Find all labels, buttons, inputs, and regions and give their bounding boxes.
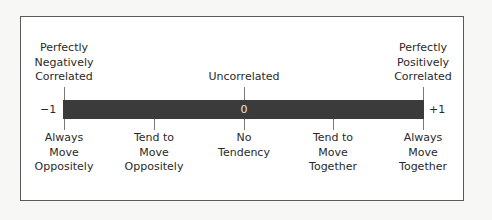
label-perfectly-negatively-correlated: Perfectly Negatively Correlated	[35, 41, 94, 85]
tick-top-zero	[244, 87, 245, 100]
label-always-move-together: Always Move Together	[399, 131, 447, 175]
tick-bottom-1	[64, 119, 65, 130]
label-tend-to-move-oppositely: Tend to Move Oppositely	[125, 131, 184, 175]
tick-bottom-4	[333, 119, 334, 130]
label-tend-to-move-together: Tend to Move Together	[309, 131, 357, 175]
tick-top-positive	[423, 87, 424, 100]
tick-bottom-2	[154, 119, 155, 130]
label-no-tendency: No Tendency	[218, 131, 270, 160]
label-perfectly-positively-correlated: Perfectly Positively Correlated	[394, 41, 452, 85]
max-value-label: +1	[429, 100, 445, 119]
label-always-move-oppositely: Always Move Oppositely	[35, 131, 94, 175]
min-value-label: −1	[40, 100, 56, 119]
label-uncorrelated: Uncorrelated	[208, 70, 279, 85]
tick-top-negative	[64, 87, 65, 100]
tick-bottom-3	[244, 119, 245, 130]
zero-value: 0	[241, 100, 248, 119]
tick-bottom-5	[423, 119, 424, 130]
